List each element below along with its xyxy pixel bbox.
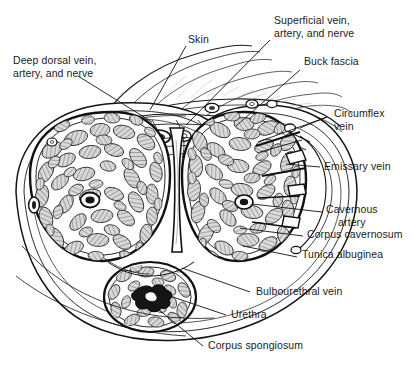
right-cavernous-artery [235,195,253,209]
label-urethra: Urethra [231,308,267,321]
anatomy-figure: Skin Superficial vein, artery, and nerve… [0,0,418,370]
left-cavernous-artery [81,193,100,208]
label-corpus-cavernosum: Corpus cavernosum [307,228,403,241]
label-cavernous-artery: Cavernous artery [326,203,378,228]
label-bulbourethral-vein: Bulbourethral vein [256,285,342,298]
label-superficial-vein-artery-nerve: Superficial vein, artery, and nerve [274,14,354,39]
label-deep-dorsal-vein-artery-nerve: Deep dorsal vein, artery, and nerve [13,54,96,79]
label-skin: Skin [188,33,209,46]
label-corpus-spongiosum: Corpus spongiosum [208,339,303,352]
label-tunica-albuginea: Tunica albuginea [302,248,383,261]
urethral-lumen [132,285,172,312]
label-circumflex-vein: Circumflex vein [334,107,385,132]
label-emissary-vein: Emissary vein [324,160,391,173]
label-buck-fascia: Buck fascia [304,55,359,68]
